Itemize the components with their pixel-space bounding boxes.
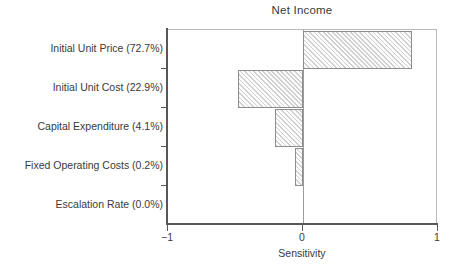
bar [295,148,303,186]
y-axis-line [166,28,168,225]
sensitivity-tornado-chart: Net Income Initial Unit Price (72.7%)Ini… [0,0,462,265]
y-axis-label: Capital Expenditure (4.1%) [3,120,163,132]
plot-area [167,29,437,224]
bar [275,109,303,147]
y-axis-label: Fixed Operating Costs (0.2%) [3,159,163,171]
bar [303,31,412,69]
bar [238,70,303,108]
y-axis-labels: Initial Unit Price (72.7%)Initial Unit C… [0,29,163,224]
x-axis-tick-label: 0 [282,231,322,243]
y-axis-label: Escalation Rate (0.0%) [3,198,163,210]
y-axis-label: Initial Unit Price (72.7%) [3,42,163,54]
chart-title: Net Income [167,4,437,16]
x-axis-tick-label: 1 [417,231,457,243]
x-axis-title: Sensitivity [167,247,437,259]
y-axis-label: Initial Unit Cost (22.9%) [3,81,163,93]
x-axis-tick-label: −1 [147,231,187,243]
